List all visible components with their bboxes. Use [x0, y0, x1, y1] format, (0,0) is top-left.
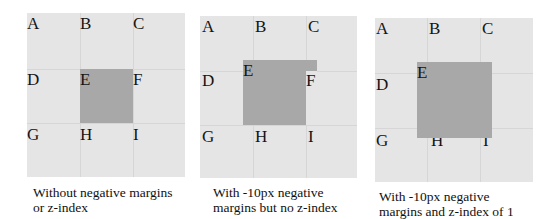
cell-b: B	[255, 18, 266, 35]
cell-i: I	[133, 126, 139, 143]
cell-e: E	[80, 71, 90, 88]
panel-no-negative-margins: A B C D E F G H I	[27, 13, 185, 177]
cell-d: D	[27, 71, 39, 88]
cell-a: A	[202, 18, 214, 35]
caption-line: or z-index	[33, 200, 172, 215]
cell-f: F	[133, 71, 142, 88]
cell-d: D	[202, 72, 214, 89]
cell-e: E	[417, 64, 427, 81]
cell-i: I	[308, 128, 314, 145]
cell-c: C	[133, 15, 144, 32]
caption-panel-2: With -10px negative margins but no z-ind…	[213, 185, 338, 215]
caption-panel-3: With -10px negative margins and z-index …	[379, 189, 514, 219]
caption-line: margins and z-index of 1	[379, 204, 514, 219]
cell-g: G	[27, 126, 39, 143]
cell-h: H	[80, 126, 92, 143]
cell-c: C	[308, 18, 319, 35]
caption-panel-1: Without negative margins or z-index	[33, 185, 172, 215]
panel-negative-margins-z-index-1: A B C D F G H I E	[375, 18, 533, 182]
cell-g: G	[376, 132, 388, 149]
cell-g: G	[202, 128, 214, 145]
grid-line	[200, 125, 357, 126]
caption-line: Without negative margins	[33, 185, 172, 200]
cell-b: B	[429, 20, 440, 37]
caption-line: With -10px negative	[213, 185, 338, 200]
cell-a: A	[376, 20, 388, 37]
cell-a: A	[27, 15, 39, 32]
caption-line: margins but no z-index	[213, 200, 338, 215]
caption-line: With -10px negative	[379, 189, 514, 204]
highlight-box-e	[417, 62, 492, 138]
grid-line	[133, 13, 134, 177]
cell-d: D	[376, 76, 388, 93]
cell-e: E	[243, 62, 253, 79]
grid-line	[27, 123, 185, 124]
cell-b: B	[80, 15, 91, 32]
panel-negative-margins-no-z-index: A B C D E F G H I	[200, 16, 357, 178]
cell-f: F	[306, 72, 315, 89]
cell-c: C	[482, 20, 493, 37]
cell-h: H	[255, 128, 267, 145]
